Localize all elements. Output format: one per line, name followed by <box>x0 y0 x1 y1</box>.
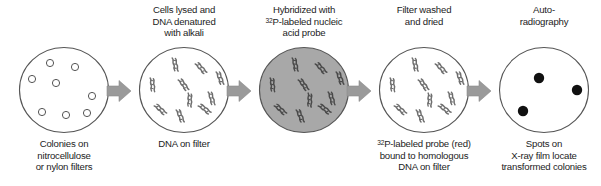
isotope-superscript: 32 <box>377 139 384 146</box>
stage-dna-on-filter-dish-svg <box>138 46 230 134</box>
isotope-superscript: 32 <box>266 16 273 23</box>
step-arrow-3-to-4 <box>346 79 372 103</box>
colony-circle <box>62 111 69 118</box>
stage-hybridized-filter-dish <box>258 46 350 134</box>
stage-washed-dried-filter: Filter washedand dried32P-labeled probe … <box>368 0 480 186</box>
step-arrow-2-to-3 <box>226 79 252 103</box>
stage-washed-dried-filter-dish <box>378 46 470 134</box>
step-arrow-1-to-2 <box>106 79 132 103</box>
dish-outline <box>140 48 229 133</box>
colony-circle <box>28 75 35 82</box>
stage-autoradiograph-film-dish <box>498 46 590 134</box>
stage-colonies-on-filter: Colonies onnitrocelluloseor nylon filter… <box>8 0 120 186</box>
autoradiograph-spot <box>518 106 528 116</box>
stage-colonies-on-filter-dish <box>18 46 110 134</box>
arrow-glyph <box>107 81 131 102</box>
colony-circle <box>38 108 45 115</box>
colony-circle <box>46 59 53 66</box>
stage-dna-on-filter-top-caption: Cells lysed andDNA denaturedwith alkali <box>128 4 240 39</box>
stage-autoradiograph-film-dish-svg <box>498 46 590 134</box>
stage-hybridized-filter-dish-svg <box>258 46 350 134</box>
dish-outline <box>380 48 469 133</box>
arrow-glyph <box>467 81 491 102</box>
step-arrow-4-to-5 <box>466 79 492 103</box>
stage-colonies-on-filter-bottom-caption: Colonies onnitrocelluloseor nylon filter… <box>8 138 120 173</box>
stage-dna-on-filter-dish <box>138 46 230 134</box>
stage-dna-on-filter-bottom-caption: DNA on filter <box>128 138 240 150</box>
stage-autoradiograph-film: Auto-radiographySpots onX-ray film locat… <box>488 0 600 186</box>
autoradiograph-spot <box>572 85 582 95</box>
dish-outline <box>20 48 109 133</box>
stage-washed-dried-filter-bottom-caption: 32P-labeled probe (red)bound to homologo… <box>368 138 480 173</box>
stage-hybridized-filter-top-caption: Hybridized with32P-labeled nucleicacid p… <box>248 4 360 39</box>
stage-hybridized-filter: Hybridized with32P-labeled nucleicacid p… <box>248 0 360 186</box>
arrow-glyph <box>227 81 251 102</box>
colony-circle <box>52 79 59 86</box>
stage-autoradiograph-film-bottom-caption: Spots onX-ray film locatetransformed col… <box>488 138 600 173</box>
colony-circle <box>71 63 78 70</box>
stage-autoradiograph-film-top-caption: Auto-radiography <box>488 4 600 27</box>
dish-outline <box>260 48 349 133</box>
colony-circle <box>88 92 95 99</box>
stage-washed-dried-filter-top-caption: Filter washedand dried <box>368 4 480 27</box>
stage-colonies-on-filter-dish-svg <box>18 46 110 134</box>
colony-circle <box>83 109 90 116</box>
stage-washed-dried-filter-dish-svg <box>378 46 470 134</box>
arrow-glyph <box>347 81 371 102</box>
colony-hybridization-figure: Colonies onnitrocelluloseor nylon filter… <box>0 0 601 186</box>
stage-dna-on-filter: Cells lysed andDNA denaturedwith alkaliD… <box>128 0 240 186</box>
autoradiograph-spot <box>534 73 544 83</box>
